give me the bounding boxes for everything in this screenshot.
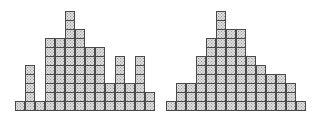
histogram-column [35,101,45,110]
histogram-cell [216,101,226,111]
histogram-cell [246,101,256,111]
histogram-cell [135,101,145,111]
histogram-column [196,56,206,110]
histogram-cell [115,101,125,111]
left-histogram-columns [15,11,155,110]
histogram-cell [145,101,155,111]
histogram-cell [35,101,45,111]
histogram-column [286,83,296,110]
histogram-column [115,56,125,110]
histogram-cell [65,101,75,111]
histogram-cell [236,101,246,111]
histogram-column [236,29,246,110]
histogram-column [166,101,176,110]
histogram-column [65,11,75,110]
histogram-cell [256,101,266,111]
histogram-cell [25,101,35,111]
histogram-cell [55,101,65,111]
histogram-cell [266,101,276,111]
right-histogram-columns [166,11,306,110]
histogram-column [216,11,226,110]
histogram-column [25,65,35,110]
histogram-column [145,92,155,110]
histogram-column [256,65,266,110]
histogram-column [246,56,256,110]
histogram-column [186,83,196,110]
histogram-cell [45,101,55,111]
histogram-column [135,56,145,110]
histogram-cell [95,101,105,111]
histogram-cell [176,101,186,111]
histogram-cell [196,101,206,111]
histogram-figure [0,0,317,130]
histogram-cell [85,101,95,111]
histogram-column [45,38,55,110]
histogram-cell [206,101,216,111]
histogram-cell [166,101,176,111]
histogram-column [95,47,105,110]
left-histogram [15,11,155,121]
histogram-column [176,83,186,110]
histogram-cell [296,101,306,111]
histogram-column [296,101,306,110]
histogram-column [206,38,216,110]
histogram-column [105,83,115,110]
histogram-column [226,29,236,110]
histogram-cell [105,101,115,111]
histogram-cell [286,101,296,111]
histogram-column [276,74,286,110]
histogram-column [15,101,25,110]
histogram-cell [226,101,236,111]
histogram-column [75,29,85,110]
histogram-column [55,38,65,110]
histogram-cell [276,101,286,111]
histogram-column [125,83,135,110]
histogram-cell [15,101,25,111]
histogram-cell [75,101,85,111]
histogram-cell [125,101,135,111]
histogram-cell [186,101,196,111]
histogram-column [85,47,95,110]
right-histogram [166,11,306,121]
histogram-column [266,74,276,110]
